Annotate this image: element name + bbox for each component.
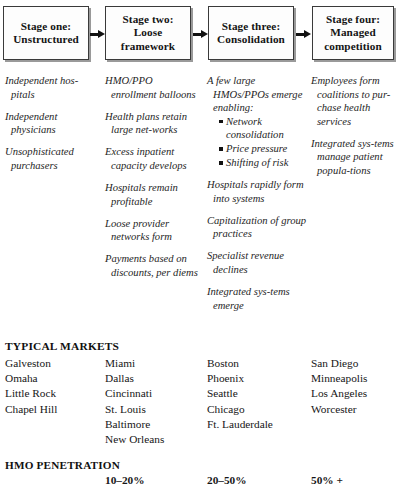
sub-bullet-item: Network consolidation — [213, 115, 307, 142]
market-city: Omaha — [5, 371, 57, 386]
arrow-head — [304, 30, 311, 38]
market-city: Chapel Hill — [5, 402, 57, 417]
arrow-right-icon-two-to-three — [193, 30, 208, 38]
market-city: New Orleans — [105, 432, 164, 447]
sub-bullet-item: Price pressure — [213, 142, 307, 155]
market-city: San Diego — [311, 356, 367, 371]
markets-list-one: Galveston Omaha Little Rock Chapel Hill — [5, 356, 57, 417]
sub-bullet-text: Shifting of risk — [226, 157, 288, 168]
square-bullet-icon — [219, 120, 223, 124]
description-item: Independent hos-pitals — [5, 74, 97, 101]
square-bullet-icon — [219, 147, 223, 151]
description-column-stage-two: HMO/PPO enrollment balloons Health plans… — [105, 74, 200, 280]
markets-column-stage-two: Miami Dallas Cincinnati St. Louis Baltim… — [105, 356, 164, 447]
description-item: HMO/PPO enrollment balloons — [105, 74, 200, 101]
description-list-four: Employees form coalitions to pur-chase h… — [311, 74, 397, 178]
stage-box-stage-four: Stage four: Managed competition — [312, 6, 394, 60]
market-city: Phoenix — [207, 371, 273, 386]
market-city: Los Angeles — [311, 386, 367, 401]
arrow-head — [98, 30, 105, 38]
description-column-stage-one: Independent hos-pitals Independent physi… — [5, 74, 97, 173]
stage-box-stage-three: Stage three: Consolidation — [208, 6, 294, 60]
sub-bullet-text: Price pressure — [226, 143, 287, 154]
description-item: Excess inpatient capacity develops — [105, 145, 200, 172]
market-city: St. Louis — [105, 402, 164, 417]
typical-markets-heading: TYPICAL MARKETS — [5, 340, 119, 352]
markets-column-stage-four: San Diego Minneapolis Los Angeles Worces… — [311, 356, 367, 417]
market-city: Ft. Lauderdale — [207, 417, 273, 432]
arrow-right-icon-three-to-four — [296, 30, 311, 38]
sub-bullet-item: Shifting of risk — [213, 156, 307, 169]
description-list-three: A few large HMOs/PPOs emerge enabling: N… — [207, 74, 307, 312]
description-text: A few large HMOs/PPOs emerge enabling: — [207, 75, 302, 113]
description-list-two: HMO/PPO enrollment balloons Health plans… — [105, 74, 200, 280]
description-item: Loose provider networks form — [105, 217, 200, 244]
hmo-penetration-heading: HMO PENETRATION — [5, 459, 120, 471]
healthcare-market-evolution-diagram: Stage one: Unstructured Stage two: Loose… — [0, 0, 399, 501]
arrow-right-icon-one-to-two — [90, 30, 105, 38]
market-city: Miami — [105, 356, 164, 371]
market-city: Cincinnati — [105, 386, 164, 401]
market-city: Worcester — [311, 402, 367, 417]
description-item: Unsophisticated purchasers — [5, 145, 97, 172]
market-city: Chicago — [207, 402, 273, 417]
stage-box-stage-one: Stage one: Unstructured — [3, 6, 89, 60]
description-item: Hospitals remain profitable — [105, 181, 200, 208]
stage-box-label-three: Stage three: Consolidation — [214, 20, 288, 47]
description-item: Independent physicians — [5, 110, 97, 137]
hmo-penetration-value-stage-two: 10–20% — [105, 474, 145, 486]
stage-boxes-row: Stage one: Unstructured Stage two: Loose… — [0, 0, 399, 72]
market-city: Galveston — [5, 356, 57, 371]
description-item: Capitalization of group practices — [207, 214, 307, 241]
market-city: Boston — [207, 356, 273, 371]
markets-list-four: San Diego Minneapolis Los Angeles Worces… — [311, 356, 367, 417]
square-bullet-icon — [219, 161, 223, 165]
description-item: Employees form coalitions to pur-chase h… — [311, 74, 397, 128]
hmo-penetration-value-stage-three: 20–50% — [207, 474, 247, 486]
stage-descriptions: Independent hos-pitals Independent physi… — [0, 74, 399, 334]
description-item: Health plans retain large net-works — [105, 110, 200, 137]
sub-bullet-list: Network consolidation Price pressure Shi… — [213, 115, 307, 170]
markets-column-stage-three: Boston Phoenix Seattle Chicago Ft. Laude… — [207, 356, 273, 432]
hmo-penetration-value-stage-four: 50% + — [311, 474, 343, 486]
stage-box-stage-two: Stage two: Loose framework — [105, 6, 191, 60]
market-city: Dallas — [105, 371, 164, 386]
sub-bullet-text: Network consolidation — [226, 116, 284, 140]
market-city: Minneapolis — [311, 371, 367, 386]
description-item: Integrated sys-tems manage patient popul… — [311, 137, 397, 178]
market-city: Little Rock — [5, 386, 57, 401]
markets-column-stage-one: Galveston Omaha Little Rock Chapel Hill — [5, 356, 57, 417]
arrow-head — [201, 30, 208, 38]
market-city: Baltimore — [105, 417, 164, 432]
description-item: Hospitals rapidly form into systems — [207, 178, 307, 205]
description-item: Payments based on discounts, per diems — [105, 252, 200, 279]
stage-box-label-one: Stage one: Unstructured — [10, 20, 82, 47]
description-item: Integrated sys-tems emerge — [207, 285, 307, 312]
markets-list-three: Boston Phoenix Seattle Chicago Ft. Laude… — [207, 356, 273, 432]
description-list-one: Independent hos-pitals Independent physi… — [5, 74, 97, 173]
stage-box-label-two: Stage two: Loose framework — [118, 13, 178, 53]
description-column-stage-three: A few large HMOs/PPOs emerge enabling: N… — [207, 74, 307, 312]
stage-box-label-four: Stage four: Managed competition — [321, 13, 385, 53]
markets-list-two: Miami Dallas Cincinnati St. Louis Baltim… — [105, 356, 164, 447]
description-column-stage-four: Employees form coalitions to pur-chase h… — [311, 74, 397, 178]
description-item: A few large HMOs/PPOs emerge enabling: N… — [207, 74, 307, 169]
market-city: Seattle — [207, 386, 273, 401]
hmo-penetration-section: HMO PENETRATION 10–20% 20–50% 50% + — [0, 459, 399, 495]
description-item: Specialist revenue declines — [207, 249, 307, 276]
